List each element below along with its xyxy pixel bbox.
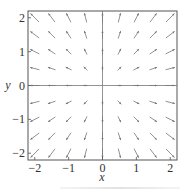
arrow-head-icon — [48, 67, 50, 69]
arrow-head-icon — [155, 102, 157, 104]
y-tick-label: 1 — [19, 45, 25, 59]
vector-field-plot: −2−1012 −2−1012 x y — [0, 0, 185, 193]
y-tick-label: 2 — [19, 11, 25, 25]
arrow-head-icon — [155, 67, 157, 69]
arrow-head-icon — [84, 31, 86, 33]
x-tick-label: 2 — [167, 161, 173, 175]
arrow-head-icon — [119, 138, 121, 140]
x-axis-label: x — [98, 170, 105, 184]
y-tick-label: −1 — [12, 112, 25, 126]
bottom-divider — [60, 187, 180, 189]
y-tick-label: −2 — [12, 146, 25, 160]
arrow-head-icon — [48, 102, 50, 104]
x-tick-label: −1 — [62, 161, 75, 175]
y-tick-label: 0 — [19, 79, 25, 93]
arrow-head-icon — [119, 31, 121, 33]
x-tick-label: −2 — [28, 161, 41, 175]
arrow-head-icon — [84, 138, 86, 140]
y-axis-label: y — [4, 78, 11, 92]
x-tick-label: 1 — [133, 161, 139, 175]
